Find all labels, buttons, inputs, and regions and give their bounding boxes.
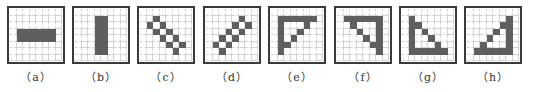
panel-f	[334, 6, 392, 64]
panel-label-d: （d）	[203, 68, 261, 84]
panel-label-e: （e）	[268, 68, 326, 84]
empty-cell	[56, 55, 63, 62]
empty-cell	[252, 55, 259, 62]
grid-box	[399, 6, 457, 64]
panel-a	[7, 6, 65, 64]
panel-c	[137, 6, 195, 64]
empty-cell	[448, 55, 455, 62]
empty-cell	[513, 55, 520, 62]
pixel-grid	[75, 9, 127, 61]
pixel-grid	[140, 9, 192, 61]
panel-label-h: （h）	[464, 68, 522, 84]
panel-label-a: （a）	[7, 68, 65, 84]
grid-box	[72, 6, 130, 64]
grid-box	[137, 6, 195, 64]
panel-d	[203, 6, 261, 64]
pixel-grid	[10, 9, 62, 61]
pixel-grid	[206, 9, 258, 61]
grid-box	[7, 6, 65, 64]
pixel-grid	[271, 9, 323, 61]
panel-label-b: （b）	[72, 68, 130, 84]
grid-box	[268, 6, 326, 64]
grid-box	[203, 6, 261, 64]
pixel-grid	[402, 9, 454, 61]
panel-label-f: （f）	[334, 68, 392, 84]
grid-box	[464, 6, 522, 64]
panel-b	[72, 6, 130, 64]
grid-box	[334, 6, 392, 64]
panel-label-g: （g）	[399, 68, 457, 84]
empty-cell	[186, 55, 193, 62]
panel-e	[268, 6, 326, 64]
panel-label-c: （c）	[137, 68, 195, 84]
empty-cell	[383, 55, 390, 62]
pixel-grid	[337, 9, 389, 61]
panel-h	[464, 6, 522, 64]
panel-g	[399, 6, 457, 64]
empty-cell	[121, 55, 128, 62]
empty-cell	[317, 55, 324, 62]
pixel-grid	[467, 9, 519, 61]
